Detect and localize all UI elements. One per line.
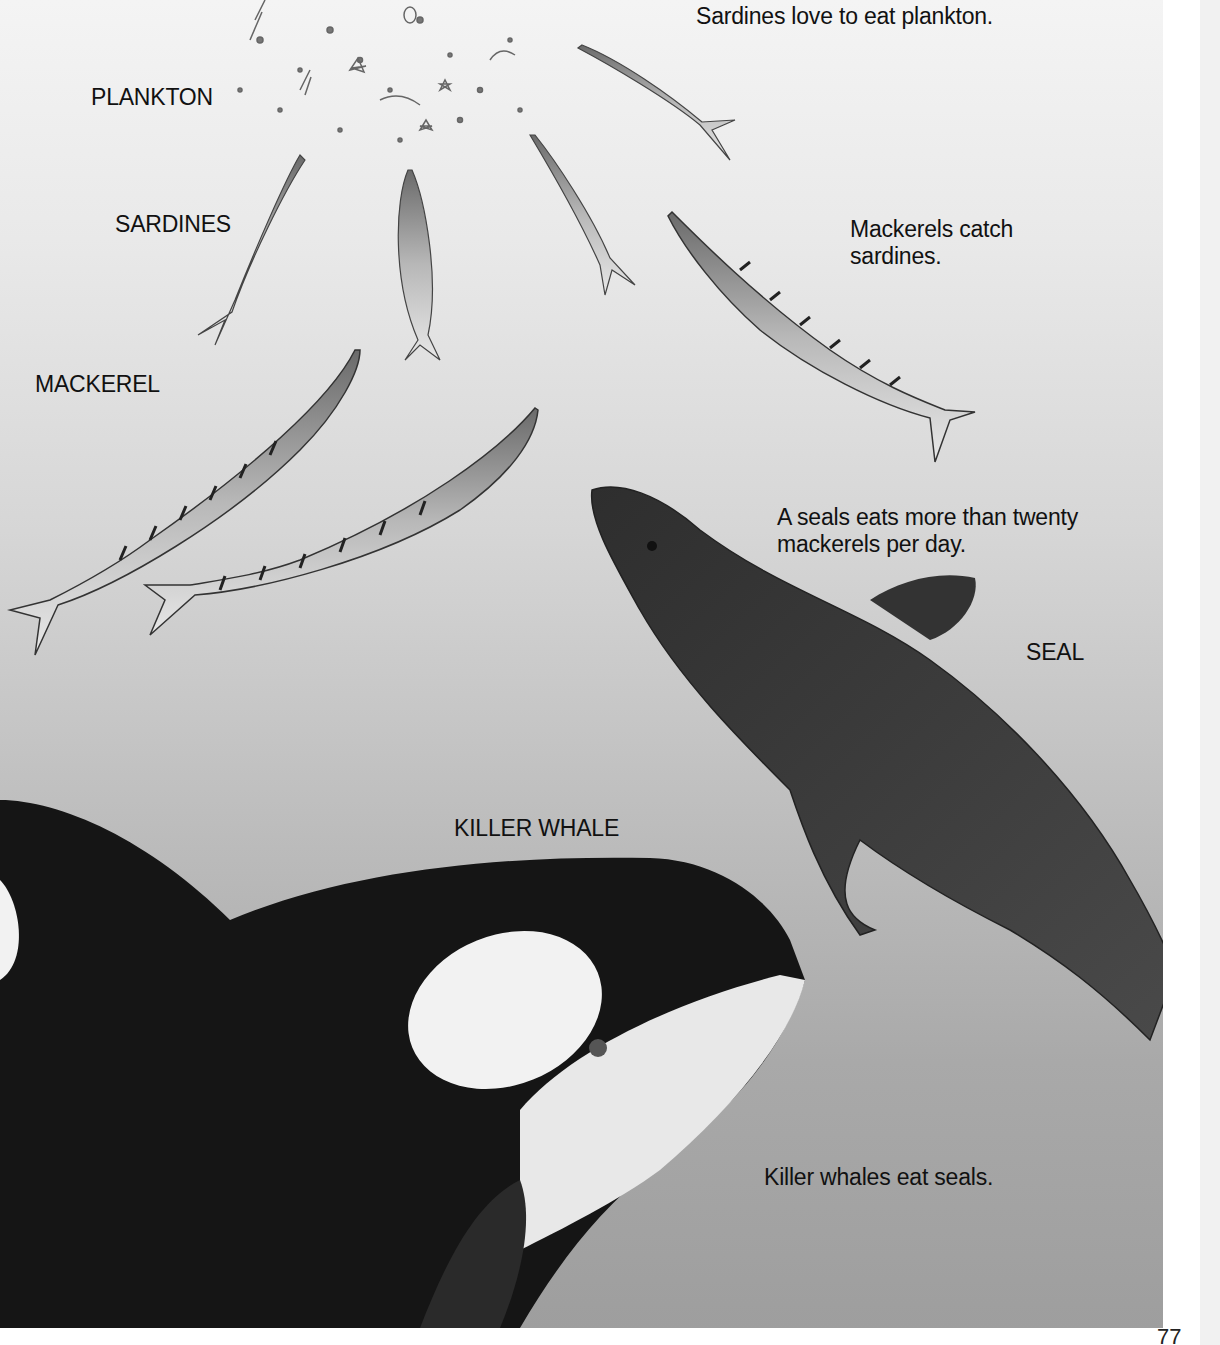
mackerel-label: MACKEREL [35,371,160,398]
caption-mackerels-catch: Mackerels catch sardines. [850,216,1070,270]
plankton-icon [238,0,522,142]
killer-whale-icon [0,800,805,1328]
killer-whale-label: KILLER WHALE [454,815,619,842]
caption-whales-eat: Killer whales eat seals. [764,1164,993,1191]
mackerel-icon [10,212,975,655]
caption-seal-eats: A seals eats more than twenty mackerels … [777,504,1137,558]
sardines-label: SARDINES [115,211,231,238]
food-chain-illustration: PLANKTON SARDINES MACKEREL SEAL KILLER W… [0,0,1163,1328]
seal-label: SEAL [1026,639,1084,666]
sardine-icon [198,45,735,360]
page-number: 77 [1157,1326,1181,1345]
page-margin [1200,0,1220,1345]
caption-sardines-eat: Sardines love to eat plankton. [696,3,993,30]
plankton-label: PLANKTON [91,84,213,111]
illustration-artwork [0,0,1163,1328]
